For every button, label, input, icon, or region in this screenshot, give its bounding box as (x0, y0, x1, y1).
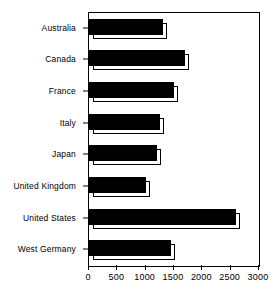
x-axis-label: 0 (85, 272, 90, 282)
x-axis-tick (201, 265, 202, 270)
category-label: United Kingdom (13, 181, 76, 190)
x-axis-label: 2000 (191, 272, 212, 282)
category-label: Canada (45, 55, 76, 64)
y-axis-tick (83, 27, 88, 28)
y-axis-tick (83, 59, 88, 60)
x-axis-label: 500 (109, 272, 125, 282)
bar-body (89, 50, 189, 70)
category-label: Australia (42, 23, 76, 32)
y-axis-tick (83, 185, 88, 186)
bar-body (89, 145, 161, 165)
bar (89, 209, 240, 229)
bar-body (89, 240, 175, 260)
bar-face (89, 209, 236, 225)
bar (89, 240, 175, 260)
x-axis-tick (116, 265, 117, 270)
bar-face (89, 177, 146, 193)
category-label: United States (23, 213, 76, 222)
x-axis-tick (230, 265, 231, 270)
bar-face (89, 82, 174, 98)
category-label: Italy (60, 118, 76, 127)
bar-face (89, 240, 171, 256)
category-axis: AustraliaCanadaFranceItalyJapanUnited Ki… (0, 12, 82, 265)
bar-body (89, 177, 150, 197)
bar-face (89, 19, 163, 35)
x-axis-tick (173, 265, 174, 270)
x-axis-tick (258, 265, 259, 270)
bar (89, 145, 161, 165)
category-label: Japan (52, 150, 76, 159)
bar (89, 50, 189, 70)
category-label: France (49, 87, 76, 96)
x-axis-label: 3000 (248, 272, 269, 282)
bar (89, 114, 164, 134)
bar (89, 82, 178, 102)
y-axis-tick (83, 91, 88, 92)
bar (89, 177, 150, 197)
x-axis-label: 1500 (163, 272, 184, 282)
bar-face (89, 145, 157, 161)
bar-body (89, 82, 178, 102)
bar-face (89, 114, 160, 130)
y-axis-tick (83, 122, 88, 123)
bar-body (89, 114, 164, 134)
x-axis-tick (145, 265, 146, 270)
y-axis-tick (83, 217, 88, 218)
y-axis-tick (83, 154, 88, 155)
y-axis-tick (83, 249, 88, 250)
bar-body (89, 209, 240, 229)
plot-area (88, 12, 260, 267)
x-axis-label: 2500 (219, 272, 240, 282)
bar-body (89, 19, 167, 39)
bar-chart: AustraliaCanadaFranceItalyJapanUnited Ki… (0, 0, 276, 295)
bar (89, 19, 167, 39)
x-axis-tick (88, 265, 89, 270)
x-axis-label: 1000 (134, 272, 155, 282)
category-label: West Germany (18, 245, 76, 254)
bar-face (89, 50, 185, 66)
